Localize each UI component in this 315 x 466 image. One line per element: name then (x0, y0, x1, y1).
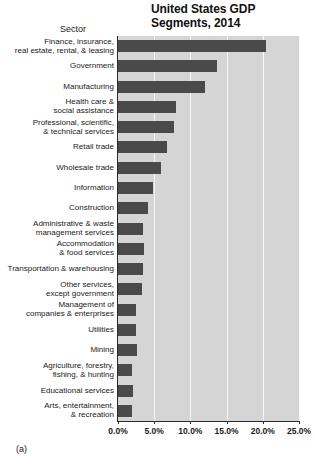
bar (118, 141, 167, 153)
bar (118, 121, 174, 133)
y-axis-tick-label: Manufacturing (0, 82, 114, 91)
y-axis-tick-label: Arts, entertainment, & recreation (0, 401, 114, 419)
plot-area (118, 36, 299, 421)
y-axis-tick-label: Construction (0, 203, 114, 212)
y-axis-tick-labels: Finance, insurance, real estate, rental,… (0, 36, 114, 421)
y-axis-tick-label: Finance, insurance, real estate, rental,… (0, 37, 114, 55)
y-axis-line (117, 36, 118, 422)
y-axis-tick-label: Agriculture, forestry, fishing, & huntin… (0, 361, 114, 379)
x-tick-label: 5.0% (134, 426, 174, 436)
bar (118, 162, 161, 174)
bar (118, 101, 176, 113)
y-axis-title: Sector (30, 24, 116, 34)
bar (118, 385, 133, 397)
x-tick-mark (154, 421, 155, 424)
bar (118, 283, 142, 295)
bar (118, 405, 132, 417)
bar (118, 182, 153, 194)
y-axis-tick-label: Other services, except government (0, 280, 114, 298)
gdp-segments-figure: United States GDP Segments, 2014 Sector … (0, 0, 315, 466)
bar (118, 304, 136, 316)
bar (118, 344, 137, 356)
bar (118, 243, 144, 255)
bar (118, 324, 136, 336)
x-tick-label: 15.0% (207, 426, 247, 436)
bar (118, 40, 266, 52)
bar (118, 223, 143, 235)
y-axis-tick-label: Educational services (0, 386, 114, 395)
bar (118, 263, 143, 275)
panel-label: (a) (16, 444, 27, 454)
bar (118, 202, 148, 214)
y-axis-tick-label: Transportation & warehousing (0, 264, 114, 273)
x-tick-label: 25.0% (279, 426, 315, 436)
x-tick-label: 10.0% (170, 426, 210, 436)
x-tick-mark (227, 421, 228, 424)
x-tick-mark (118, 421, 119, 424)
x-tick-label: 20.0% (243, 426, 283, 436)
y-axis-tick-label: Information (0, 183, 114, 192)
x-tick-label: 0.0% (98, 426, 138, 436)
x-tick-mark (263, 421, 264, 424)
x-tick-mark (190, 421, 191, 424)
chart-title: United States GDP Segments, 2014 (151, 2, 311, 30)
y-axis-tick-label: Accommodation & food services (0, 239, 114, 257)
bar (118, 81, 205, 93)
bar (118, 60, 217, 72)
y-axis-tick-label: Administrative & waste management servic… (0, 219, 114, 237)
bar-series (118, 36, 299, 421)
y-axis-tick-label: Government (0, 61, 114, 70)
gridline (299, 36, 300, 421)
y-axis-tick-label: Professional, scientific, & technical se… (0, 118, 114, 136)
x-tick-mark (299, 421, 300, 424)
y-axis-tick-label: Utilities (0, 325, 114, 334)
y-axis-tick-label: Retail trade (0, 142, 114, 151)
x-axis-tick-labels: 0.0%5.0%10.0%15.0%20.0%25.0% (0, 421, 315, 441)
y-axis-tick-label: Mining (0, 345, 114, 354)
bar (118, 364, 132, 376)
y-axis-tick-label: Management of companies & enterprises (0, 300, 114, 318)
y-axis-tick-label: Wholesale trade (0, 163, 114, 172)
y-axis-tick-label: Health care & social assistance (0, 97, 114, 115)
